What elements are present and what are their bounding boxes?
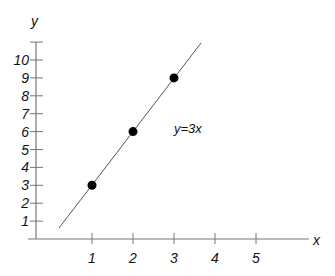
x-tick-label: 2 [129, 251, 137, 265]
data-point [170, 73, 179, 82]
y-tick-label: 8 [21, 89, 29, 103]
y-tick-label: 1 [21, 214, 29, 228]
x-tick-label: 3 [170, 251, 178, 265]
y-tick-label: 5 [21, 143, 29, 157]
y-tick-label: 9 [21, 71, 29, 85]
equation-annotation: y=3x [174, 122, 202, 135]
y-tick-label: 3 [21, 178, 29, 192]
x-tick-label: 1 [88, 251, 96, 265]
x-tick-label: 5 [252, 251, 260, 265]
y-tick-label: 7 [21, 107, 29, 121]
y-tick-label: 2 [21, 196, 29, 210]
y-tick-label: 10 [13, 53, 29, 67]
x-axis-label: x [313, 233, 320, 247]
x-tick-label: 4 [211, 251, 219, 265]
y-tick-label: 6 [21, 125, 29, 139]
y-axis-label: y [31, 14, 38, 28]
data-point [88, 181, 97, 190]
y-tick-label: 4 [21, 160, 29, 174]
line-chart [0, 0, 335, 276]
data-point [129, 127, 138, 136]
